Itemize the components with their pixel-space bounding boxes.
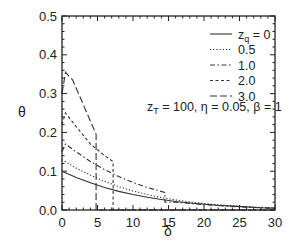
y-tick-label: 0.5 xyxy=(39,9,57,24)
legend-label: 1.0 xyxy=(238,59,255,73)
y-tick-label: 0.3 xyxy=(39,86,57,101)
x-tick-label: 25 xyxy=(232,215,246,230)
legend: zq = 00.51.02.03.0 xyxy=(210,28,271,104)
x-axis-label: δ xyxy=(164,223,172,239)
y-tick-labels: 0.00.10.20.30.40.5 xyxy=(39,9,57,218)
line-chart: 051015202530 0.00.10.20.30.40.5 δ θ zq =… xyxy=(0,0,292,252)
y-axis-label: θ xyxy=(18,104,26,120)
x-tick-label: 10 xyxy=(126,215,140,230)
legend-label: 2.0 xyxy=(238,74,255,88)
x-tick-label: 5 xyxy=(94,215,101,230)
series-line-3 xyxy=(62,113,275,210)
legend-label: zq = 0 xyxy=(238,28,271,44)
x-tick-label: 20 xyxy=(197,215,211,230)
x-tick-label: 0 xyxy=(58,215,65,230)
parameter-annotation: zT = 100, η = 0.05, β = 1 xyxy=(147,100,282,116)
y-tick-label: 0.1 xyxy=(39,164,57,179)
y-tick-label: 0.4 xyxy=(39,47,57,62)
x-tick-label: 30 xyxy=(268,215,282,230)
y-tick-label: 0.2 xyxy=(39,125,57,140)
legend-label: 0.5 xyxy=(238,43,255,57)
y-tick-label: 0.0 xyxy=(39,203,57,218)
